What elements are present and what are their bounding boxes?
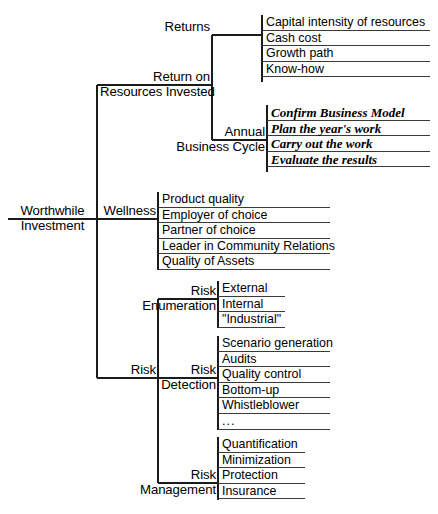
node-risk-detection: Risk Detection: [118, 362, 216, 392]
leaf-item: Quality control: [218, 367, 330, 383]
leaf-item: Internal: [218, 297, 285, 313]
node-annual-business-cycle: Annual Business Cycle: [165, 124, 265, 154]
leaf-item: "Industrial": [218, 312, 285, 328]
node-return-on-line2: Resources Invested: [100, 84, 210, 99]
leaf-group-returns: Capital intensity of resources Cash cost…: [262, 15, 430, 77]
leaf-item: External: [218, 281, 285, 297]
node-root-line2: Investment: [8, 218, 97, 233]
node-risk-enumeration-line2: Enumeration: [118, 298, 216, 313]
leaf-item: Quality of Assets: [158, 254, 330, 270]
leaf-item: Minimization: [218, 453, 305, 469]
leaf-item: Quantification: [218, 437, 305, 453]
node-annual-line2: Business Cycle: [165, 139, 265, 154]
leaf-item-ellipsis: ...: [218, 414, 330, 430]
leaf-item: Partner of choice: [158, 223, 330, 239]
leaf-item: Protection: [218, 468, 305, 484]
node-risk-enumeration: Risk Enumeration: [118, 283, 216, 313]
leaf-item: Employer of choice: [158, 208, 330, 224]
node-risk-management-line1: Risk: [118, 467, 216, 482]
node-return-on-line1: Return on: [100, 69, 210, 84]
leaf-item: Evaluate the results: [267, 152, 430, 168]
leaf-group-risk-enumeration: External Internal "Industrial": [218, 281, 285, 328]
leaf-item: Confirm Business Model: [267, 105, 430, 121]
node-root: Worthwhile Investment: [8, 203, 97, 233]
leaf-group-wellness: Product quality Employer of choice Partn…: [158, 192, 330, 270]
node-risk-detection-line2: Detection: [118, 377, 216, 392]
node-wellness: Wellness: [100, 203, 156, 218]
leaf-item: Leader in Community Relations: [158, 239, 330, 255]
leaf-item: Plan the year's work: [267, 121, 430, 137]
leaf-item: Insurance: [218, 484, 305, 500]
leaf-item: Capital intensity of resources: [262, 15, 430, 31]
leaf-item: Growth path: [262, 46, 430, 62]
node-return-on-resources-invested: Return on Resources Invested: [100, 69, 210, 99]
leaf-item: Carry out the work: [267, 136, 430, 152]
leaf-item: Whistleblower: [218, 398, 330, 414]
node-risk-enumeration-line1: Risk: [118, 283, 216, 298]
leaf-item: Audits: [218, 352, 330, 368]
node-risk-management-line2: Management: [118, 482, 216, 497]
diagram-canvas: Worthwhile Investment Return on Resource…: [0, 0, 438, 514]
node-returns-line1: Returns: [152, 19, 210, 34]
leaf-item: Product quality: [158, 192, 330, 208]
leaf-item: Scenario generation: [218, 336, 330, 352]
leaf-item: Bottom-up: [218, 383, 330, 399]
leaf-group-annual-business-cycle: Confirm Business Model Plan the year's w…: [267, 105, 430, 167]
node-annual-line1: Annual: [165, 124, 265, 139]
leaf-item: Cash cost: [262, 31, 430, 47]
node-risk-detection-line1: Risk: [118, 362, 216, 377]
node-returns: Returns: [152, 19, 210, 34]
node-risk-management: Risk Management: [118, 467, 216, 497]
leaf-group-risk-detection: Scenario generation Audits Quality contr…: [218, 336, 330, 430]
leaf-group-risk-management: Quantification Minimization Protection I…: [218, 437, 305, 499]
node-root-line1: Worthwhile: [8, 203, 97, 218]
leaf-item: Know-how: [262, 62, 430, 78]
node-wellness-line1: Wellness: [100, 203, 156, 218]
